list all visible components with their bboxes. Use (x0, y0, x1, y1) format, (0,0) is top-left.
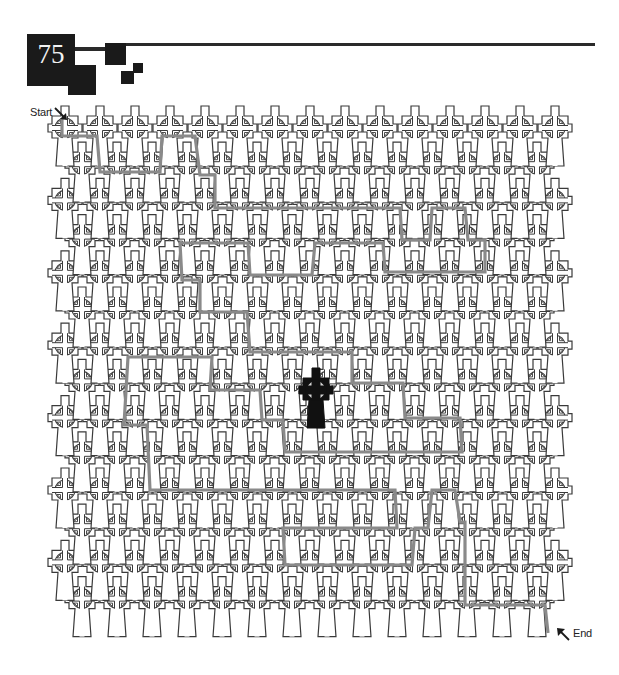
maze-board[interactable] (0, 0, 619, 675)
end-arrow-icon (557, 628, 569, 640)
